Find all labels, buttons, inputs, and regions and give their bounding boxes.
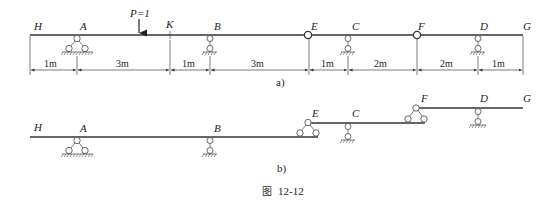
roller-support-d-icon <box>470 36 485 56</box>
hinge-f-icon <box>413 31 420 38</box>
label-b-e: E <box>311 107 319 119</box>
label-k: K <box>165 18 174 30</box>
pin-support-a-icon <box>61 35 93 55</box>
label-a: A <box>79 20 87 32</box>
label-b-f: F <box>420 92 428 104</box>
label-g: G <box>523 20 531 32</box>
dim-c-f: 2m <box>374 58 387 69</box>
diagram-b-label: b) <box>277 162 287 175</box>
roller-support-b-icon <box>202 36 217 56</box>
dim-a-k: 3m <box>116 58 129 69</box>
load-label: P=1 <box>129 7 150 19</box>
roller-support-b-c-icon <box>340 124 355 144</box>
label-d: D <box>479 20 488 32</box>
label-b-h: H <box>33 121 43 133</box>
label-b-g: G <box>523 92 531 104</box>
label-b: B <box>214 20 221 32</box>
label-b-c: C <box>352 107 360 119</box>
pin-support-b-e-icon <box>297 119 319 136</box>
figure-caption-number: 12-12 <box>278 185 304 197</box>
diagram-a-label: a) <box>276 76 285 89</box>
dimension-extension-lines <box>30 36 523 75</box>
hinge-e-icon <box>304 31 311 38</box>
dim-f-d: 2m <box>440 58 453 69</box>
label-h: H <box>33 20 43 32</box>
diagram-a: H A K B E C F D G P=1 <box>30 7 531 89</box>
structural-diagram: H A K B E C F D G P=1 <box>0 0 558 202</box>
dim-e-c: 1m <box>321 58 334 69</box>
roller-support-b-b-icon <box>202 138 217 158</box>
pin-support-b-a-icon <box>61 137 93 157</box>
dim-h-a: 1m <box>44 58 57 69</box>
label-b-a: A <box>79 122 87 134</box>
label-b-d: D <box>479 92 488 104</box>
label-b-b: B <box>214 122 221 134</box>
roller-support-c-icon <box>340 36 355 56</box>
dim-d-g: 1m <box>492 58 505 69</box>
roller-support-b-d-icon <box>469 109 486 129</box>
dim-k-b: 1m <box>182 58 195 69</box>
dim-b-e: 3m <box>251 58 264 69</box>
label-e: E <box>310 20 318 32</box>
label-c: C <box>352 20 360 32</box>
label-f: F <box>417 20 425 32</box>
diagram-b: H A B E C F D G <box>30 92 531 175</box>
figure-caption-prefix: 图 <box>262 186 272 197</box>
